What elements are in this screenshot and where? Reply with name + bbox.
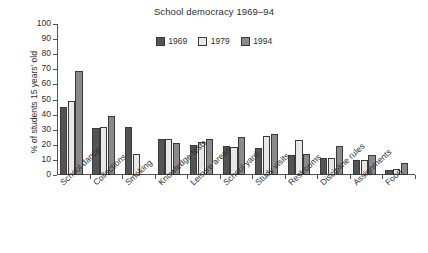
bar[interactable] (60, 107, 67, 175)
x-tick (220, 175, 221, 179)
y-tick-label-20: 20 (19, 139, 51, 149)
bar-group (255, 24, 278, 175)
x-tick (415, 175, 416, 179)
y-tick-100 (53, 24, 57, 25)
x-tick (155, 175, 156, 179)
x-tick (90, 175, 91, 179)
chart-title: School democracy 1969–94 (0, 6, 428, 17)
y-tick-label-80: 80 (19, 48, 51, 58)
y-axis-line (57, 24, 58, 175)
y-tick-50 (53, 100, 57, 101)
bar[interactable] (158, 139, 165, 175)
bar-group (320, 24, 343, 175)
bar[interactable] (125, 127, 132, 175)
y-tick-90 (53, 39, 57, 40)
y-tick-10 (53, 160, 57, 161)
y-tick-label-0: 0 (19, 169, 51, 179)
y-tick-30 (53, 130, 57, 131)
bar-group (158, 24, 181, 175)
bar-chart: School democracy 1969–94 1969 1979 1994 … (0, 0, 428, 253)
y-tick-label-30: 30 (19, 124, 51, 134)
y-tick-label-40: 40 (19, 109, 51, 119)
y-tick-70 (53, 69, 57, 70)
y-tick-label-90: 90 (19, 33, 51, 43)
bar-group (125, 24, 148, 175)
y-tick-label-100: 100 (19, 18, 51, 28)
bar-group (288, 24, 311, 175)
y-tick-label-60: 60 (19, 78, 51, 88)
y-tick-label-70: 70 (19, 63, 51, 73)
y-tick-label-50: 50 (19, 94, 51, 104)
y-tick-label-10: 10 (19, 154, 51, 164)
bar-group (60, 24, 83, 175)
y-tick-0 (53, 175, 57, 176)
y-tick-40 (53, 115, 57, 116)
y-tick-20 (53, 145, 57, 146)
y-tick-60 (53, 84, 57, 85)
y-tick-80 (53, 54, 57, 55)
